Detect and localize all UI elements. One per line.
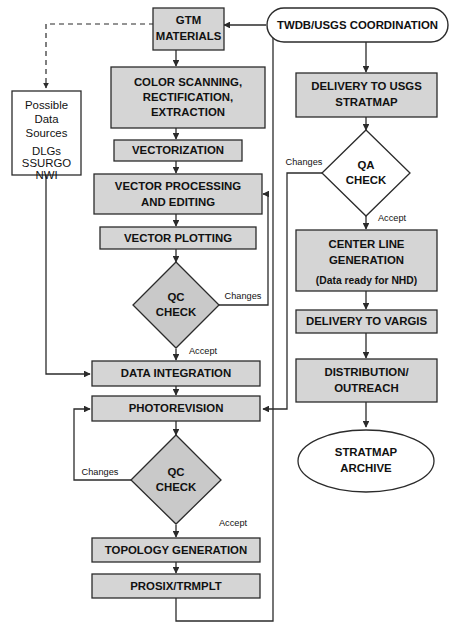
node-delivery-usgs-line2: STRATMAP [335, 96, 398, 108]
node-possible-data-sources-line4: DLGs [32, 145, 61, 157]
edge-label-qc1-accept: Accept [189, 346, 218, 356]
node-center-line-generation-line3: (Data ready for NHD) [316, 275, 417, 286]
node-color-scanning-line1: COLOR SCANNING, [134, 76, 242, 88]
node-delivery-vargis-label: DELIVERY TO VARGIS [306, 315, 428, 327]
node-stratmap-archive-line1: STRATMAP [335, 446, 398, 458]
node-qc-check-2[interactable]: QC CHECK [131, 435, 221, 524]
node-vector-plotting[interactable]: VECTOR PLOTTING [100, 227, 256, 249]
edge-label-qa-changes: Changes [286, 157, 323, 167]
node-gtm-materials[interactable]: GTM MATERIALS [153, 8, 224, 50]
edge-label-qc2-changes: Changes [82, 467, 119, 477]
node-delivery-usgs-line1: DELIVERY TO USGS [311, 80, 422, 92]
node-data-integration[interactable]: DATA INTEGRATION [92, 361, 260, 386]
edge-data-sources-to-data-integration [46, 175, 90, 374]
node-photorevision[interactable]: PHOTOREVISION [92, 396, 260, 421]
node-qc-check-1[interactable]: QC CHECK [133, 262, 219, 348]
node-twdb-usgs-coordination-label: TWDB/USGS COORDINATION [277, 19, 438, 31]
node-distribution-outreach-line2: OUTREACH [334, 382, 399, 394]
node-qc-check-2-line1: QC [167, 466, 184, 478]
node-vectorization-label: VECTORIZATION [132, 144, 224, 156]
node-qc-check-1-line2: CHECK [156, 306, 197, 318]
node-vector-processing-line1: VECTOR PROCESSING [115, 180, 242, 192]
node-possible-data-sources-line5: SSURGO [22, 157, 72, 169]
node-twdb-usgs-coordination[interactable]: TWDB/USGS COORDINATION [267, 8, 448, 42]
edge-label-qa-accept: Accept [378, 213, 407, 223]
node-topology-generation[interactable]: TOPOLOGY GENERATION [92, 538, 260, 562]
node-vector-processing-line2: AND EDITING [141, 196, 215, 208]
node-delivery-vargis[interactable]: DELIVERY TO VARGIS [296, 310, 437, 333]
node-color-scanning[interactable]: COLOR SCANNING, RECTIFICATION, EXTRACTIO… [111, 67, 265, 128]
node-qa-check-line1: QA [357, 159, 374, 171]
node-center-line-generation-line1: CENTER LINE [329, 238, 405, 250]
node-qa-check-line2: CHECK [346, 174, 387, 186]
node-center-line-generation[interactable]: CENTER LINE GENERATION (Data ready for N… [296, 230, 437, 291]
node-vector-plotting-label: VECTOR PLOTTING [124, 232, 232, 244]
node-possible-data-sources-line1: Possible [25, 99, 68, 111]
node-distribution-outreach-line1: DISTRIBUTION/ [324, 366, 409, 378]
node-qa-check[interactable]: QA CHECK [322, 130, 410, 216]
node-gtm-materials-line2: MATERIALS [156, 30, 222, 42]
edge-label-qc1-changes: Changes [225, 291, 262, 301]
node-photorevision-label: PHOTOREVISION [129, 402, 224, 414]
node-stratmap-archive[interactable]: STRATMAP ARCHIVE [298, 430, 434, 492]
node-topology-generation-label: TOPOLOGY GENERATION [105, 544, 247, 556]
node-qc-check-2-line2: CHECK [156, 481, 197, 493]
node-prosix-trmplt-label: PROSIX/TRMPLT [130, 580, 222, 592]
node-distribution-outreach[interactable]: DISTRIBUTION/ OUTREACH [296, 359, 437, 402]
edge-label-qc2-accept: Accept [219, 518, 248, 528]
node-data-integration-label: DATA INTEGRATION [121, 367, 231, 379]
node-stratmap-archive-line2: ARCHIVE [340, 462, 392, 474]
node-center-line-generation-line2: GENERATION [329, 254, 404, 266]
node-gtm-materials-line1: GTM [176, 14, 201, 26]
node-possible-data-sources-line2: Data [34, 113, 59, 125]
flowchart-svg: TWDB/USGS COORDINATION GTM MATERIALS COL… [0, 0, 454, 634]
node-delivery-usgs-stratmap[interactable]: DELIVERY TO USGS STRATMAP [296, 73, 437, 117]
flowchart-canvas: TWDB/USGS COORDINATION GTM MATERIALS COL… [0, 0, 454, 634]
node-qc-check-1-line1: QC [167, 291, 184, 303]
node-possible-data-sources-line3: Sources [26, 127, 68, 139]
node-prosix-trmplt[interactable]: PROSIX/TRMPLT [92, 574, 260, 598]
node-vector-processing[interactable]: VECTOR PROCESSING AND EDITING [94, 174, 262, 214]
node-possible-data-sources[interactable]: Possible Data Sources DLGs SSURGO NWI [12, 91, 81, 181]
node-color-scanning-line3: EXTRACTION [151, 106, 225, 118]
node-color-scanning-line2: RECTIFICATION, [143, 91, 233, 103]
node-vectorization[interactable]: VECTORIZATION [114, 140, 242, 161]
node-possible-data-sources-line6: NWI [35, 169, 57, 181]
